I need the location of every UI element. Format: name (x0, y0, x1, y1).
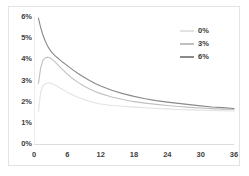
x-axis-line (34, 144, 234, 145)
y-tick-label: 4% (6, 55, 32, 63)
x-tick-label: 24 (155, 150, 179, 159)
x-tick-label: 6 (55, 150, 79, 159)
y-tick-label: 5% (6, 34, 32, 42)
y-tick-label: 1% (6, 119, 32, 127)
legend-item[interactable]: 0% (180, 24, 226, 37)
legend-label: 6% (198, 52, 209, 61)
x-tick-label: 36 (222, 150, 246, 159)
chart-figure: 6%5%4%3%2%1%0% 061218243036 0%3%6% (0, 0, 249, 176)
legend-line-icon (180, 30, 194, 32)
series-line-3pct (38, 57, 234, 109)
x-tick-label: 12 (89, 150, 113, 159)
legend-item[interactable]: 6% (180, 50, 226, 63)
y-axis: 6%5%4%3%2%1%0% (4, 17, 32, 144)
legend: 0%3%6% (180, 24, 226, 63)
legend-line-icon (180, 56, 194, 58)
y-tick-label: 6% (6, 13, 32, 21)
legend-item[interactable]: 3% (180, 37, 226, 50)
x-axis: 061218243036 (34, 150, 234, 162)
y-tick-label: 2% (6, 98, 32, 106)
legend-label: 0% (198, 26, 209, 35)
x-tick-label: 18 (122, 150, 146, 159)
legend-label: 3% (198, 39, 209, 48)
legend-line-icon (180, 43, 194, 45)
x-tick-label: 30 (189, 150, 213, 159)
y-tick-label: 0% (6, 140, 32, 148)
y-tick-label: 3% (6, 77, 32, 85)
x-tick-label: 0 (22, 150, 46, 159)
